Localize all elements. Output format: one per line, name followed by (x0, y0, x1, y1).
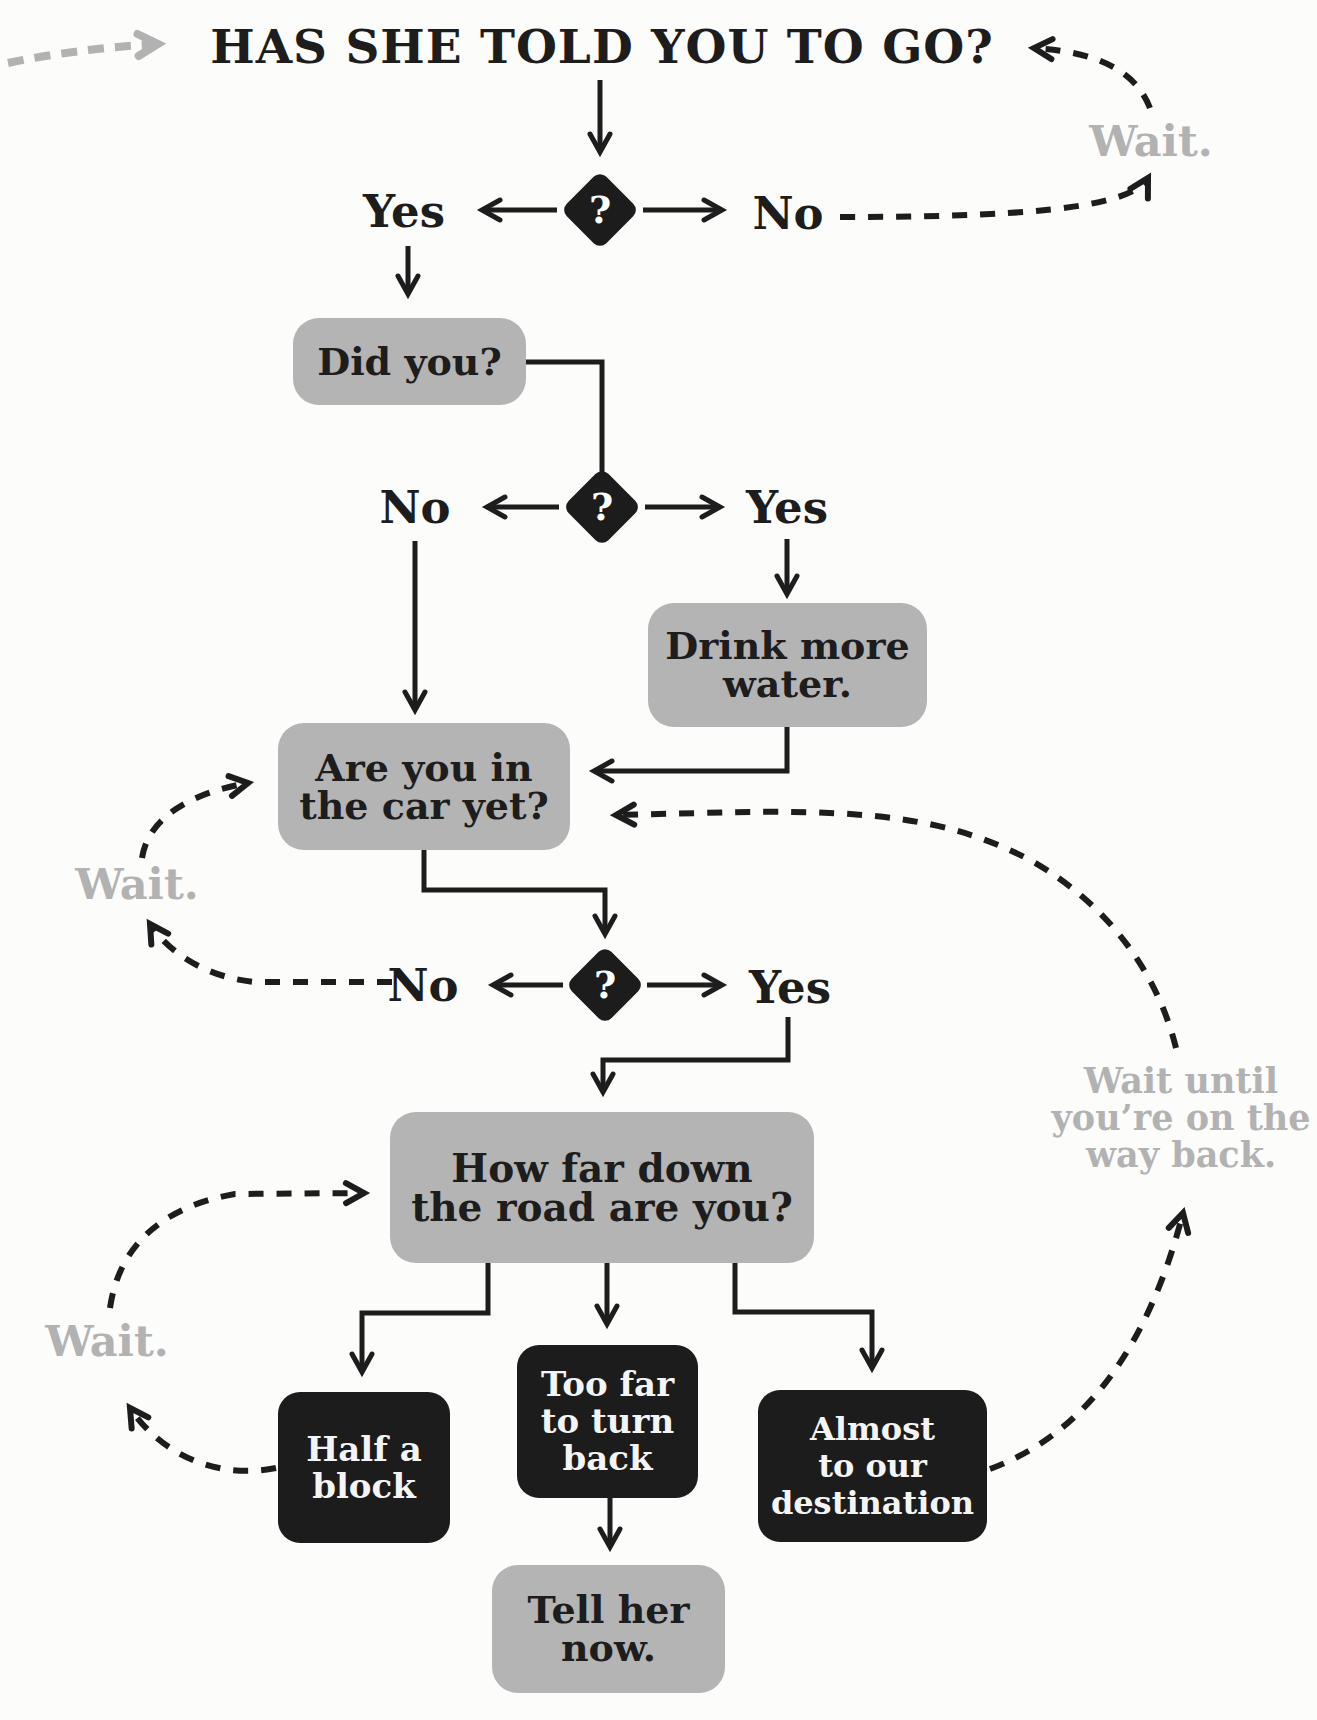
elbow-did-you-to-decision2 (526, 362, 602, 474)
too-far-line1: Too far (541, 1366, 674, 1403)
did-you-box: Did you? (293, 318, 526, 405)
flowchart-title: HAS SHE TOLD YOU TO GO? (210, 23, 994, 70)
almost-box: Almost to our destination (758, 1390, 987, 1542)
wait-until-line2: you’re on the (1051, 1099, 1310, 1136)
elbow-yes3-to-how-far (603, 1017, 788, 1092)
how-far-line1: How far down (451, 1149, 752, 1188)
wait-until-line3: way back. (1051, 1136, 1310, 1173)
dashed-half-block-to-wait-bottom (130, 1408, 276, 1471)
did-you-text: Did you? (317, 343, 502, 381)
dashed-no3-to-wait-mid (150, 924, 392, 982)
dashed-wait-until-to-in-car (616, 812, 1176, 1048)
intro-dashed-arrow (8, 44, 158, 63)
wait-label-top-right: Wait. (1089, 120, 1213, 163)
branch-how-far-to-almost (735, 1263, 872, 1368)
drink-water-line2: water. (723, 665, 852, 703)
tell-her-box: Tell her now. (492, 1565, 725, 1693)
elbow-drink-water-to-in-car (594, 727, 787, 771)
how-far-box: How far down the road are you? (390, 1112, 814, 1263)
in-car-box: Are you in the car yet? (278, 723, 570, 850)
dashed-no1-to-wait-top (840, 178, 1148, 217)
wait-until-label: Wait until you’re on the way back. (1051, 1062, 1310, 1173)
almost-line3: destination (771, 1485, 974, 1522)
too-far-box: Too far to turn back (517, 1345, 698, 1498)
tell-her-line2: now. (561, 1629, 656, 1667)
branch-how-far-to-half-block (362, 1263, 488, 1372)
decision1-no-label: No (752, 191, 823, 236)
decision3-question-icon: ? (594, 966, 616, 1004)
decision3-no-label: No (387, 963, 458, 1008)
decision3-yes-label: Yes (749, 965, 831, 1010)
dashed-wait-mid-to-in-car (142, 783, 248, 858)
half-block-box: Half a block (278, 1392, 450, 1543)
in-car-line2: the car yet? (299, 787, 549, 825)
decision2-yes-label: Yes (746, 485, 828, 530)
too-far-line2: to turn (541, 1403, 674, 1440)
elbow-in-car-to-decision3 (424, 850, 605, 934)
drink-water-box: Drink more water. (648, 603, 927, 727)
decision2-no-label: No (379, 485, 450, 530)
wait-until-line1: Wait until (1051, 1062, 1310, 1099)
wait-label-bottom-left: Wait. (45, 1320, 169, 1363)
almost-line1: Almost (810, 1411, 935, 1448)
tell-her-line1: Tell her (527, 1591, 689, 1629)
decision1-yes-label: Yes (363, 189, 445, 234)
half-block-line1: Half a (306, 1431, 422, 1468)
half-block-line2: block (312, 1468, 416, 1505)
decision2-question-icon: ? (591, 488, 613, 526)
decision1-question-icon: ? (589, 191, 611, 229)
drink-water-line1: Drink more (665, 627, 909, 665)
how-far-line2: the road are you? (411, 1188, 793, 1227)
dashed-almost-to-wait-until (990, 1213, 1183, 1469)
flowchart-canvas: HAS SHE TOLD YOU TO GO? ? Yes No Wait. D… (0, 0, 1317, 1720)
dashed-wait-bottom-to-how-far (110, 1193, 364, 1308)
dashed-wait-top-to-title (1034, 48, 1150, 108)
too-far-line3: back (562, 1440, 652, 1477)
wait-label-mid-left: Wait. (75, 863, 199, 906)
almost-line2: to our (818, 1448, 927, 1485)
in-car-line1: Are you in (315, 749, 532, 787)
